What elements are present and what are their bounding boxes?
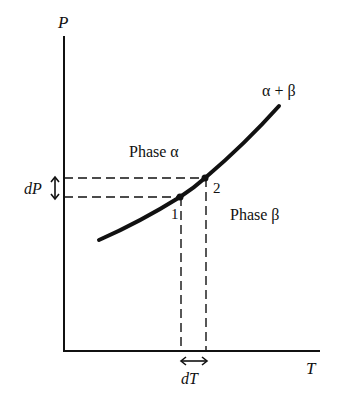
dp-label: dP	[24, 180, 42, 197]
dt-double-arrow-icon	[181, 357, 207, 365]
dp-double-arrow-icon	[51, 177, 59, 199]
phase-diagram: P T 1 2 Phase α Phase β α + β dP	[0, 0, 340, 409]
phase-beta-label: Phase β	[230, 206, 279, 224]
point-1-label: 1	[171, 206, 179, 222]
point-2-label: 2	[213, 180, 221, 196]
dashed-guides	[64, 178, 206, 351]
phase-alpha-label: Phase α	[129, 143, 179, 160]
alpha-plus-beta-label: α + β	[262, 82, 296, 100]
p-axis-label: P	[57, 13, 68, 32]
t-axis-label: T	[306, 359, 317, 378]
point-2-marker	[202, 175, 209, 182]
point-1-marker	[177, 194, 184, 201]
dt-label: dT	[181, 370, 199, 387]
